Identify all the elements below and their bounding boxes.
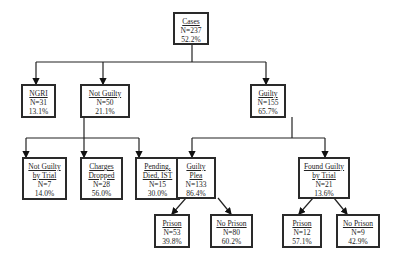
node-charges-dropped: Charges Dropped N=28 56.0% <box>80 157 123 200</box>
node-cases: Cases N=237 52.2% <box>173 12 209 45</box>
node-found-guilty-by-trial: Found Guilty by Trial N=21 13.6% <box>298 157 350 199</box>
node-pending: Pending, Died, IST N=15 30.0% <box>135 157 180 200</box>
node-guilty: Guilty N=155 65.7% <box>250 84 286 118</box>
node-plea-prison: Prison N=53 39.8% <box>154 214 190 248</box>
node-not-guilty-by-trial: Not Guilty by Trial N=7 14.0% <box>22 157 67 200</box>
node-trial-prison: Prison N=12 57.1% <box>282 214 322 248</box>
node-trial-no-prison: No Prison N=9 42.9% <box>336 214 380 248</box>
node-guilty-plea: Guilty Plea N=133 86.4% <box>176 157 216 199</box>
node-ngri: NGRI N=31 13.1% <box>21 84 56 118</box>
node-not-guilty: Not Guilty N=50 21.1% <box>80 84 130 118</box>
node-plea-no-prison: No Prison N=80 60.2% <box>210 214 253 248</box>
